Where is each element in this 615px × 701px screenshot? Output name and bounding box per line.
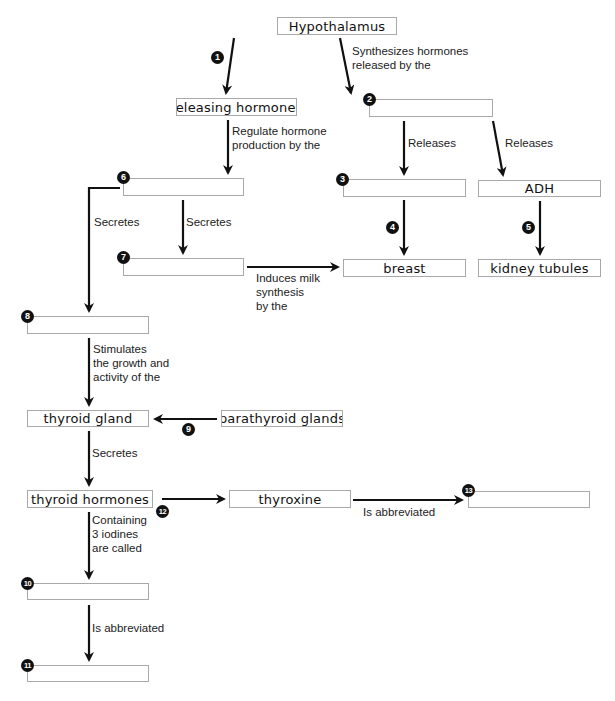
label-induces-3: by the — [256, 299, 287, 313]
answer-box-8[interactable] — [27, 316, 149, 334]
node-breast: breast — [343, 259, 466, 277]
label-stimulates-1: Stimulates — [93, 342, 147, 356]
answer-box-2[interactable] — [369, 99, 493, 117]
answer-box-10[interactable] — [27, 583, 149, 600]
marker-4: 4 — [386, 221, 399, 234]
marker-6: 6 — [117, 171, 130, 184]
label-regulate-1: Regulate hormone — [232, 124, 327, 138]
node-parathyroid-glands: parathyroid glands — [221, 410, 343, 427]
concept-map: Hypothalamus releasing hormones ADH brea… — [0, 0, 615, 701]
label-secretes-mid: Secretes — [186, 215, 231, 229]
answer-box-7[interactable] — [123, 258, 244, 276]
node-thyroid-gland: thyroid gland — [27, 410, 149, 427]
label-induces-1: Induces milk — [256, 271, 320, 285]
marker-8: 8 — [21, 310, 34, 323]
marker-13: 13 — [462, 484, 475, 497]
marker-7: 7 — [117, 251, 130, 264]
marker-12: 12 — [156, 505, 169, 518]
label-stimulates-3: activity of the — [93, 370, 160, 384]
marker-3: 3 — [336, 173, 349, 186]
label-synthesizes-1: Synthesizes hormones — [352, 44, 468, 58]
marker-9: 9 — [182, 423, 195, 436]
label-releases-adh: Releases — [505, 136, 553, 150]
marker-2: 2 — [363, 93, 376, 106]
arrow-synthesizes — [340, 38, 351, 93]
answer-box-11[interactable] — [27, 665, 149, 682]
label-abbrev-bottom: Is abbreviated — [92, 621, 164, 635]
marker-10: 10 — [21, 577, 34, 590]
node-hypothalamus: Hypothalamus — [277, 17, 397, 35]
node-kidney-tubules: kidney tubules — [478, 259, 601, 277]
label-secretes-left: Secretes — [94, 215, 139, 229]
answer-box-3[interactable] — [343, 179, 466, 197]
label-containing-2: 3 iodines — [92, 527, 138, 541]
label-abbrev-right: Is abbreviated — [363, 505, 435, 519]
label-stimulates-2: the growth and — [93, 356, 169, 370]
node-thyroxine: thyroxine — [229, 490, 351, 508]
label-induces-2: synthesis — [256, 285, 304, 299]
arrow-secretes-8 — [89, 188, 120, 311]
answer-box-6[interactable] — [123, 178, 244, 196]
arrow-1 — [226, 38, 234, 93]
arrow-releases-adh — [493, 121, 503, 175]
marker-11: 11 — [21, 659, 34, 672]
label-synthesizes-2: released by the — [352, 58, 431, 72]
label-regulate-2: production by the — [232, 138, 320, 152]
marker-5: 5 — [522, 221, 535, 234]
label-containing-3: are called — [92, 541, 142, 555]
node-thyroid-hormones: thyroid hormones — [27, 490, 153, 508]
label-releases-3: Releases — [408, 136, 456, 150]
answer-box-13[interactable] — [468, 491, 590, 508]
label-containing-1: Containing — [92, 513, 147, 527]
label-secretes-thyroid: Secretes — [92, 446, 137, 460]
node-releasing-hormones: releasing hormones — [176, 98, 297, 116]
marker-1: 1 — [211, 51, 224, 64]
node-adh: ADH — [478, 180, 601, 197]
